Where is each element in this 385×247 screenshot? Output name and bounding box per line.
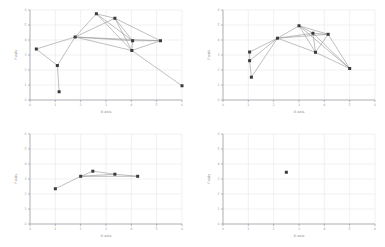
y-tick-label: 6: [24, 132, 26, 136]
y-tick-label: 1: [217, 83, 219, 87]
x-tick-label: 6: [374, 227, 376, 231]
data-point-marker: [250, 76, 253, 79]
x-tick-label: 1: [247, 227, 249, 231]
x-tick-label: 4: [130, 103, 132, 107]
y-axis-title: Y-axis: [14, 50, 18, 60]
y-tick-label: 5: [217, 23, 219, 27]
node-group: [285, 171, 288, 174]
x-tick-label: 2: [80, 103, 82, 107]
data-point-marker: [285, 171, 288, 174]
graph-edge: [277, 38, 315, 52]
graph-edge: [115, 18, 161, 41]
y-tick-label: 0: [217, 222, 219, 226]
data-point-marker: [348, 67, 351, 70]
node-group: [35, 12, 184, 93]
y-tick-label: 3: [24, 53, 26, 57]
graph-edge: [36, 49, 57, 66]
graph-edge: [57, 37, 75, 66]
axis-ticks: 01234560123456: [217, 8, 376, 107]
data-point-marker: [35, 48, 38, 51]
x-tick-label: 1: [54, 227, 56, 231]
graph-edge: [313, 33, 316, 52]
x-tick-label: 2: [80, 227, 82, 231]
data-point-marker: [113, 17, 116, 20]
x-tick-label: 3: [298, 227, 300, 231]
x-tick-label: 2: [273, 227, 275, 231]
data-point-marker: [327, 33, 330, 36]
x-tick-label: 1: [247, 103, 249, 107]
edge-group: [36, 14, 182, 92]
graph-edge: [250, 61, 252, 77]
x-tick-label: 0: [222, 103, 224, 107]
data-point-marker: [311, 32, 314, 35]
data-point-marker: [159, 39, 162, 42]
y-tick-label: 4: [217, 162, 219, 166]
data-point-marker: [56, 64, 59, 67]
data-point-marker: [181, 84, 184, 87]
y-tick-label: 1: [217, 207, 219, 211]
axis-ticks: 01234560123456: [24, 132, 183, 231]
panel-top-right: 01234560123456X-axisY-axis: [193, 0, 385, 123]
x-tick-label: 6: [181, 227, 183, 231]
y-tick-label: 4: [217, 38, 219, 42]
y-tick-label: 1: [24, 83, 26, 87]
x-axis-title: X-axis: [294, 234, 305, 238]
graph-edge: [132, 41, 161, 51]
y-tick-label: 1: [24, 207, 26, 211]
data-point-marker: [79, 175, 82, 178]
panel-bottom-right: 01234560123456X-axisY-axis: [193, 124, 385, 247]
data-point-marker: [131, 39, 134, 42]
x-tick-label: 5: [349, 227, 351, 231]
plot-bottom-left: 01234560123456X-axisY-axis: [0, 124, 192, 247]
graph-edge: [81, 174, 115, 176]
data-point-marker: [58, 90, 61, 93]
graph-edge: [115, 174, 138, 176]
panel-bottom-left: 01234560123456X-axisY-axis: [0, 124, 192, 247]
x-tick-label: 3: [298, 103, 300, 107]
plot-bottom-right: 01234560123456X-axisY-axis: [193, 124, 385, 247]
y-tick-label: 2: [217, 68, 219, 72]
edge-group: [250, 26, 350, 77]
data-point-marker: [74, 36, 77, 39]
x-axis-title: X-axis: [101, 110, 112, 114]
x-tick-label: 4: [323, 103, 325, 107]
graph-edge: [315, 34, 328, 52]
y-tick-label: 5: [217, 147, 219, 151]
y-axis-title: Y-axis: [207, 174, 211, 184]
x-tick-label: 0: [29, 103, 31, 107]
y-tick-label: 2: [217, 192, 219, 196]
x-tick-label: 3: [105, 103, 107, 107]
plot-top-left: 01234560123456X-axisY-axis: [0, 0, 192, 123]
axis-ticks: 01234560123456: [24, 8, 183, 107]
data-point-marker: [248, 51, 251, 54]
y-tick-label: 2: [24, 68, 26, 72]
y-tick-label: 0: [24, 222, 26, 226]
graph-edge: [57, 66, 59, 92]
y-axis-title: Y-axis: [207, 50, 211, 60]
data-point-marker: [130, 49, 133, 52]
gridlines: [30, 134, 182, 224]
y-tick-label: 3: [217, 53, 219, 57]
y-tick-label: 4: [24, 162, 26, 166]
figure-canvas: 01234560123456X-axisY-axis 0123456012345…: [0, 0, 385, 247]
x-tick-label: 6: [374, 103, 376, 107]
axis-ticks: 01234560123456: [217, 132, 376, 231]
x-tick-label: 1: [54, 103, 56, 107]
y-tick-label: 6: [217, 8, 219, 12]
y-tick-label: 6: [24, 8, 26, 12]
plot-top-right: 01234560123456X-axisY-axis: [193, 0, 385, 123]
x-tick-label: 0: [29, 227, 31, 231]
node-group: [54, 170, 139, 191]
x-tick-label: 0: [222, 227, 224, 231]
y-tick-label: 0: [24, 98, 26, 102]
graph-edge: [36, 37, 75, 49]
data-point-marker: [113, 173, 116, 176]
data-point-marker: [95, 12, 98, 15]
graph-edge: [75, 14, 96, 37]
data-point-marker: [314, 51, 317, 54]
y-tick-label: 4: [24, 38, 26, 42]
data-point-marker: [298, 24, 301, 27]
y-tick-label: 2: [24, 192, 26, 196]
graph-edge: [55, 176, 80, 188]
x-axis-title: X-axis: [294, 110, 305, 114]
